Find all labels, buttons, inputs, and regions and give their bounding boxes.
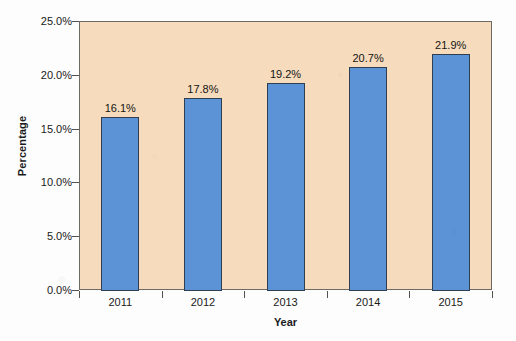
bar-label-2013: 19.2% [270, 68, 301, 80]
bar-2015[interactable] [432, 54, 470, 291]
y-tick-mark [72, 290, 79, 291]
x-axis-title: Year [79, 316, 492, 328]
x-tick-mark [79, 291, 80, 298]
y-tick-mark [72, 75, 79, 76]
y-tick-mark [72, 21, 79, 22]
y-tick-label: 20.0% [10, 69, 72, 81]
y-tick-label: 10.0% [10, 176, 72, 188]
page-background: Percentage 25.0% 20.0% 15.0% 10.0% 5.0% … [0, 0, 516, 341]
bar-2011[interactable] [101, 117, 139, 291]
bar-label-2014: 20.7% [352, 52, 383, 64]
x-tick-mark [244, 291, 245, 298]
x-tick-label-2014: 2014 [356, 296, 380, 308]
y-tick-mark [72, 129, 79, 130]
x-tick-mark [162, 291, 163, 298]
bar-chart: Percentage 25.0% 20.0% 15.0% 10.0% 5.0% … [0, 0, 516, 341]
y-tick-mark [72, 236, 79, 237]
x-tick-label-2012: 2012 [191, 296, 215, 308]
bar-2014[interactable] [349, 67, 387, 291]
x-tick-label-2013: 2013 [273, 296, 297, 308]
y-axis: 25.0% 20.0% 15.0% 10.0% 5.0% 0.0% [0, 0, 72, 341]
y-tick-label: 25.0% [10, 15, 72, 27]
x-tick-label-2015: 2015 [438, 296, 462, 308]
y-tick-label: 0.0% [10, 284, 72, 296]
x-tick-mark [492, 291, 493, 298]
bar-label-2011: 16.1% [105, 102, 136, 114]
x-tick-label-2011: 2011 [108, 296, 132, 308]
y-tick-label: 5.0% [10, 230, 72, 242]
x-tick-mark [327, 291, 328, 298]
bar-2013[interactable] [267, 83, 305, 291]
y-tick-label: 15.0% [10, 123, 72, 135]
bar-label-2015: 21.9% [435, 39, 466, 51]
y-tick-mark [72, 182, 79, 183]
x-tick-mark [409, 291, 410, 298]
bar-label-2012: 17.8% [187, 83, 218, 95]
bar-2012[interactable] [184, 98, 222, 291]
